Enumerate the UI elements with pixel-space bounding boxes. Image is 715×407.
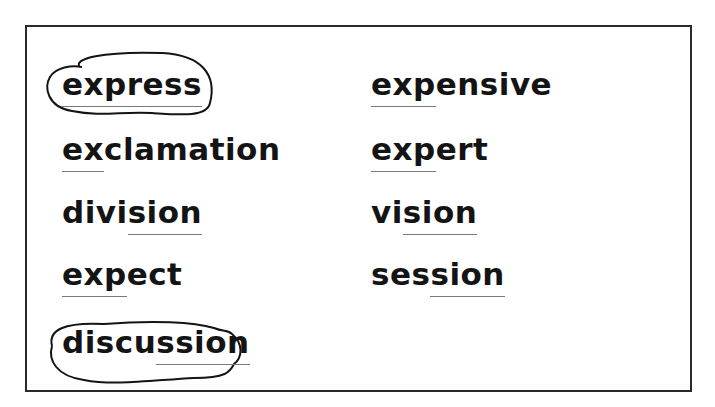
underlined-part: ssion <box>156 324 249 365</box>
underlined-part: sion <box>128 194 202 235</box>
underlined-part: express <box>62 66 202 107</box>
word-exclamation: exclamation <box>62 131 280 167</box>
word-session: session <box>371 256 505 292</box>
word-expensive: expensive <box>371 66 552 102</box>
word-division: division <box>62 194 202 230</box>
underlined-part: sion <box>403 194 477 235</box>
word-discussion: discussion <box>62 324 250 360</box>
underlined-part: ex <box>62 131 104 172</box>
word-expert: expert <box>371 131 488 167</box>
underlined-part: sion <box>430 256 504 297</box>
word-express: express <box>62 66 202 102</box>
word-vision: vision <box>371 194 477 230</box>
underlined-part: exp <box>371 131 436 172</box>
word-expect: expect <box>62 256 182 292</box>
underlined-part: exp <box>62 256 127 297</box>
underlined-part: exp <box>371 66 436 107</box>
